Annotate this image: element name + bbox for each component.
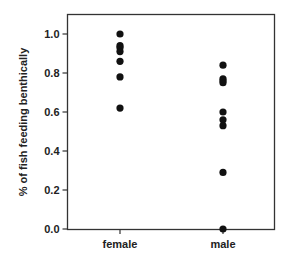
- y-axis-title: % of fish feeding benthically: [17, 47, 29, 196]
- x-tick-label-male: male: [210, 238, 235, 250]
- y-tick-label: 1.0: [44, 28, 59, 40]
- y-tick-label: 0.8: [44, 67, 59, 79]
- y-tick-label: 0.4: [44, 145, 60, 157]
- data-point-male: [219, 108, 226, 115]
- scatter-chart: 0.00.20.40.60.81.0 femalemale % of fish …: [0, 0, 288, 258]
- data-points: [116, 30, 226, 232]
- data-point-male: [219, 79, 226, 86]
- plot-frame: [68, 15, 275, 230]
- data-point-female: [116, 48, 123, 55]
- x-axis: femalemale: [103, 229, 236, 250]
- data-point-female: [116, 73, 123, 80]
- y-axis: 0.00.20.40.60.81.0: [44, 28, 67, 235]
- data-point-male: [219, 62, 226, 69]
- data-point-male: [219, 169, 226, 176]
- y-tick-label: 0.0: [44, 223, 59, 235]
- y-tick-label: 0.6: [44, 106, 59, 118]
- data-point-female: [116, 30, 123, 37]
- data-point-male: [219, 122, 226, 129]
- data-point-female: [116, 105, 123, 112]
- data-point-male: [219, 225, 226, 232]
- x-tick-label-female: female: [103, 238, 138, 250]
- y-tick-label: 0.2: [44, 184, 59, 196]
- data-point-female: [116, 58, 123, 65]
